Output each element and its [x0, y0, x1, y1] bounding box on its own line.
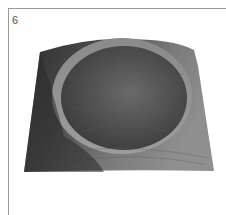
wooden-bowl-photo: [24, 36, 214, 174]
figure-number: 6: [12, 14, 18, 26]
frame-top-border: [8, 8, 226, 9]
bowl-hollow: [61, 46, 187, 150]
frame-left-border: [8, 8, 9, 215]
